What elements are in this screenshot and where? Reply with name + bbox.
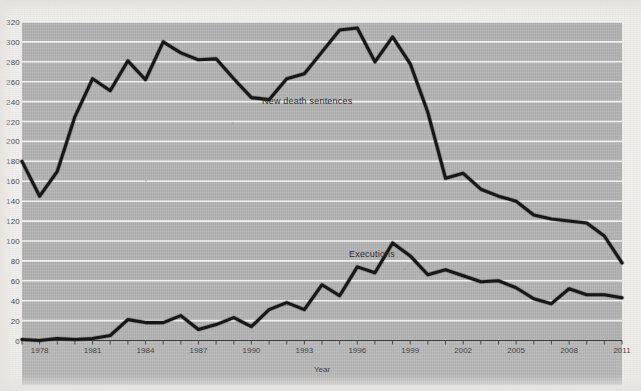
- scan-speck: [145, 180, 147, 182]
- chart-figure: 3203002802602402202001801601401201008060…: [0, 0, 641, 391]
- plot-svg: [0, 0, 641, 391]
- series-line-halo: [22, 243, 622, 341]
- x-axis-title: Year: [314, 365, 330, 374]
- x-tick-label: 2008: [560, 346, 578, 355]
- page-edge-bottom: [0, 375, 641, 391]
- x-tick-label: 1978: [31, 346, 49, 355]
- series-line: [22, 243, 622, 341]
- x-tick-label: 2002: [454, 346, 472, 355]
- scan-speck: [232, 122, 234, 125]
- page-edge-top: [0, 0, 641, 14]
- series-label-death-sentences: New death sentences: [262, 96, 352, 106]
- x-tick-label: 1993: [295, 346, 313, 355]
- x-tick-label: 1990: [243, 346, 261, 355]
- series-line: [22, 28, 622, 263]
- page-edge-left: [0, 0, 12, 391]
- x-tick-label: 1999: [401, 346, 419, 355]
- x-tick-label: 1987: [190, 346, 208, 355]
- data-series: [22, 28, 622, 341]
- x-tick-label: 2011: [613, 346, 630, 355]
- series-line-halo: [22, 28, 622, 263]
- scan-speck: [318, 294, 320, 296]
- x-axis-ticks: [22, 341, 622, 345]
- x-tick-label: 1981: [84, 346, 102, 355]
- x-tick-label: 1996: [348, 346, 366, 355]
- gridlines: [22, 22, 622, 321]
- x-tick-label: 2005: [507, 346, 525, 355]
- scan-speck: [404, 268, 406, 270]
- series-label-executions: Executions: [349, 249, 395, 259]
- x-tick-label: 1984: [137, 346, 155, 355]
